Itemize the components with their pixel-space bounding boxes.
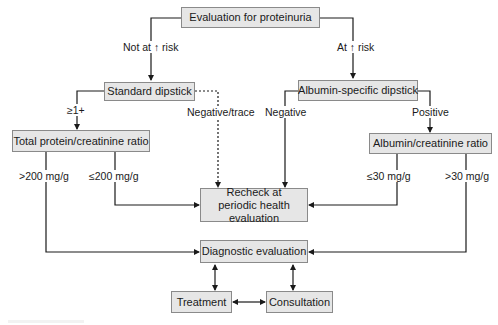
node-standard-dipstick: Standard dipstick — [104, 82, 195, 101]
label-le-30: ≤30 mg/g — [366, 170, 412, 182]
node-albumin-creatinine-ratio: Albumin/creatinine ratio — [369, 133, 492, 154]
label-not-at-risk: Not at ↑ risk — [122, 41, 179, 53]
footer-bar — [8, 320, 84, 323]
label-gt-30: >30 mg/g — [444, 170, 490, 182]
label-gt-200: >200 mg/g — [18, 170, 70, 182]
label-at-risk: At ↑ risk — [336, 41, 375, 53]
node-evaluation-for-proteinuria: Evaluation for proteinuria — [181, 7, 320, 28]
label-ge-1plus: ≥1+ — [66, 104, 86, 116]
node-diagnostic-evaluation: Diagnostic evaluation — [200, 240, 308, 263]
node-total-protein-creatinine-ratio: Total protein/creatinine ratio — [12, 130, 150, 152]
node-recheck-periodic-health-evaluation: Recheck at periodic health evaluation — [200, 188, 308, 222]
label-positive: Positive — [411, 106, 450, 118]
node-consultation: Consultation — [266, 291, 333, 313]
node-treatment: Treatment — [171, 291, 232, 313]
connector-lines — [0, 0, 498, 325]
node-albumin-specific-dipstick: Albumin-specific dipstick — [298, 80, 418, 101]
label-negative: Negative — [264, 106, 307, 118]
label-le-200: ≤200 mg/g — [88, 170, 140, 182]
label-negative-trace: Negative/trace — [186, 106, 256, 118]
